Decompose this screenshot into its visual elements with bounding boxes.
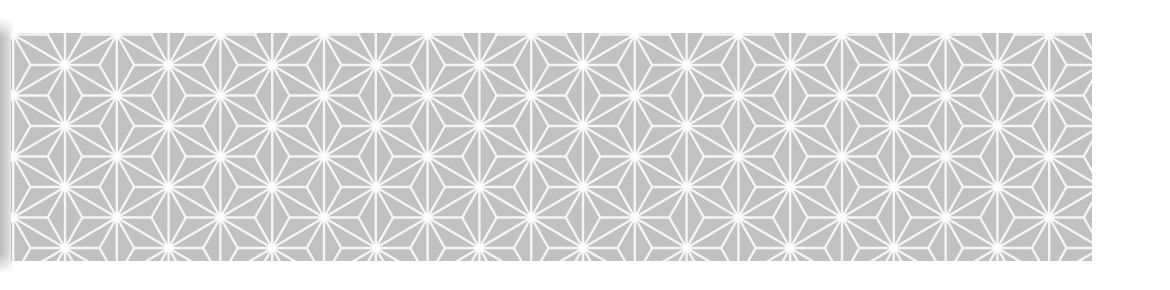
asanoha-pattern-panel: asanoha [11, 33, 1092, 261]
asanoha-pattern-graphic [11, 33, 1092, 261]
